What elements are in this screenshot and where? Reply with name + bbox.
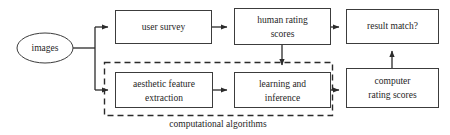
node-human-rating-scores: human rating scores	[235, 9, 331, 45]
result-match-label: result match?	[367, 21, 418, 31]
aesthetic-feature-extraction-label-line2: extraction	[145, 93, 183, 103]
node-images: images	[17, 33, 73, 63]
computer-rating-scores-label-line2: rating scores	[368, 90, 417, 100]
aesthetic-feature-extraction-label-line1: aesthetic feature	[133, 79, 195, 89]
group-caption-label: computational algorithms	[169, 119, 267, 129]
learning-and-inference-label-line2: inference	[265, 93, 300, 103]
user-survey-label: user survey	[142, 22, 186, 32]
node-result-match: result match?	[347, 10, 439, 44]
images-label: images	[32, 43, 59, 53]
computer-rating-scores-label-line1: computer	[375, 76, 412, 86]
node-learning-and-inference: learning and inference	[235, 73, 331, 108]
flowchart-diagram: images user survey human rating scores r…	[0, 0, 450, 135]
learning-and-inference-label-line1: learning and	[259, 79, 306, 89]
computer-rating-scores-box-shape	[347, 69, 439, 108]
human-rating-scores-label-line1: human rating	[257, 15, 308, 25]
node-user-survey: user survey	[116, 11, 212, 44]
node-aesthetic-feature-extraction: aesthetic feature extraction	[116, 73, 213, 108]
diagram-canvas: images user survey human rating scores r…	[0, 0, 450, 135]
node-computer-rating-scores: computer rating scores	[347, 69, 439, 108]
human-rating-scores-label-line2: scores	[271, 29, 295, 39]
